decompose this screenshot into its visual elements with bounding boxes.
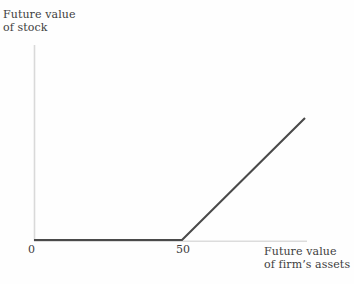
chart-plot-area	[0, 0, 354, 284]
x-axis-label: Future value of firm’s assets	[264, 246, 350, 271]
y-axis-label-line-2: of stock	[3, 22, 76, 35]
y-axis-label: Future value of stock	[3, 9, 76, 34]
payoff-chart-figure: Future value of stock Future value of fi…	[0, 0, 354, 284]
x-axis-label-line-2: of firm’s assets	[264, 259, 350, 272]
x-tick-label-50: 50	[176, 243, 190, 256]
x-axis-label-line-1: Future value	[264, 246, 350, 259]
x-tick-label-0: 0	[28, 243, 35, 256]
payoff-line	[34, 118, 305, 240]
y-axis-label-line-1: Future value	[3, 9, 76, 22]
